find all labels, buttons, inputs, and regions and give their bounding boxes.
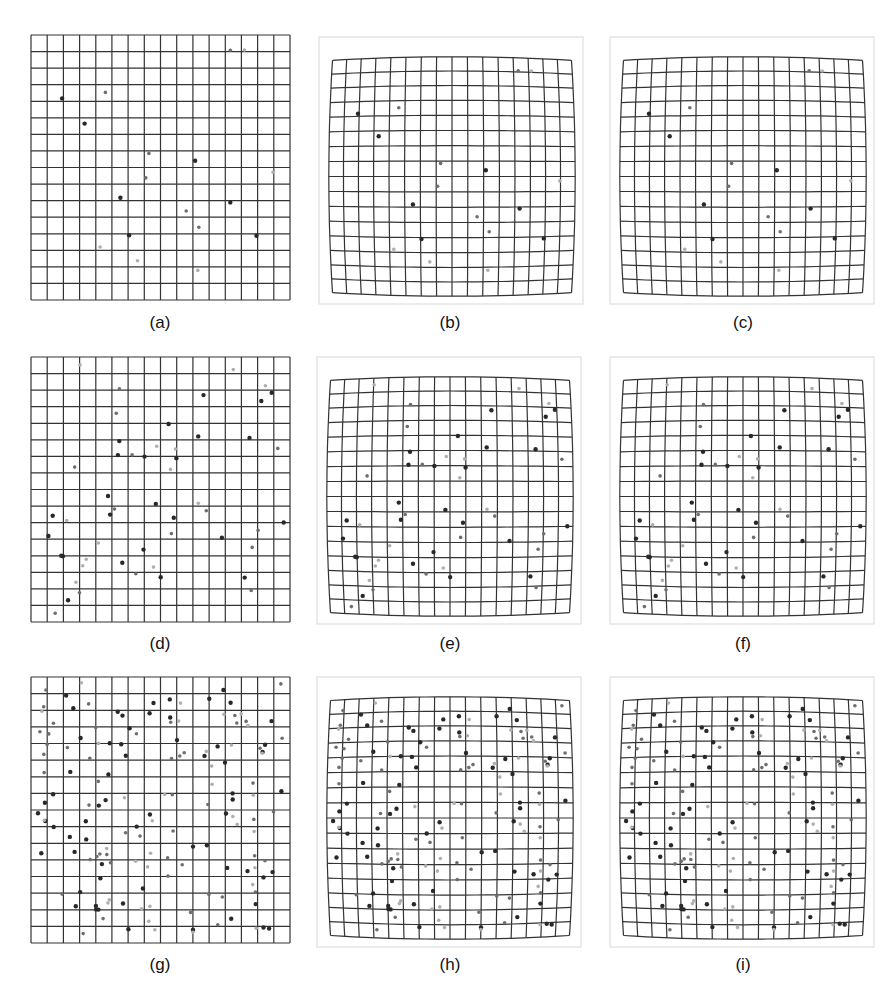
grid-lines <box>31 35 290 300</box>
grid-lines <box>620 377 866 616</box>
scatter-dots <box>341 383 570 608</box>
panel-c <box>618 55 868 298</box>
panel-caption-c: (c) <box>713 313 773 333</box>
grid-lines <box>329 57 575 296</box>
panel-caption-g: (g) <box>130 955 190 975</box>
scatter-dots <box>624 701 861 931</box>
grid-image <box>31 357 290 622</box>
panel-caption-a: (a) <box>130 313 190 333</box>
panel-a <box>31 35 290 300</box>
grid-lines <box>31 357 290 622</box>
panel-caption-f: (f) <box>713 634 773 654</box>
panel-caption-d: (d) <box>130 634 190 654</box>
scatter-dots <box>331 701 568 931</box>
grid-lines <box>620 697 866 939</box>
grid-lines <box>327 377 573 616</box>
panel-caption-h: (h) <box>420 955 480 975</box>
grid-lines <box>620 57 866 296</box>
grid-image <box>325 695 575 941</box>
scatter-dots <box>60 48 275 272</box>
grid-image <box>31 677 290 943</box>
grid-image <box>618 695 868 941</box>
grid-image <box>327 55 577 298</box>
grid-image <box>618 55 868 298</box>
grid-image <box>618 375 868 618</box>
panel-f <box>618 375 868 618</box>
panel-caption-i: (i) <box>713 955 773 975</box>
panel-i <box>618 695 868 941</box>
panel-caption-b: (b) <box>420 313 480 333</box>
grid-image <box>31 35 290 300</box>
panel-h <box>325 695 575 941</box>
grid-lines <box>31 677 290 943</box>
scatter-dots <box>634 383 863 608</box>
panel-g <box>31 677 290 943</box>
grid-lines <box>327 697 573 939</box>
panel-caption-e: (e) <box>420 634 480 654</box>
panel-b <box>327 55 577 298</box>
panel-d <box>31 357 290 622</box>
grid-image <box>325 375 575 618</box>
scatter-dots <box>36 681 284 936</box>
panel-e <box>325 375 575 618</box>
